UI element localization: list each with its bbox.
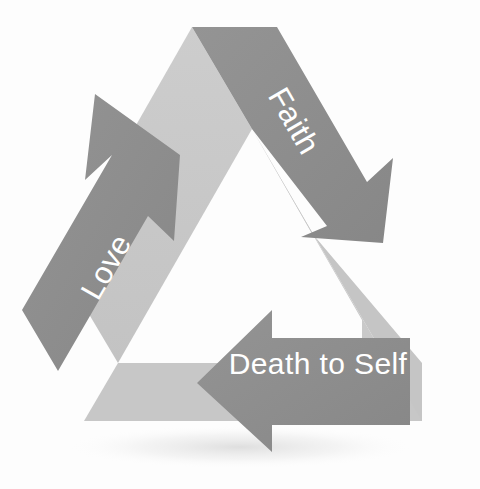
arrow-death-label: Death to Self — [229, 347, 408, 380]
diagram-canvas: Faith Love Death to Self — [0, 0, 480, 489]
ground-shadow — [62, 425, 418, 469]
recycle-cycle-diagram: Faith Love Death to Self — [0, 0, 480, 489]
